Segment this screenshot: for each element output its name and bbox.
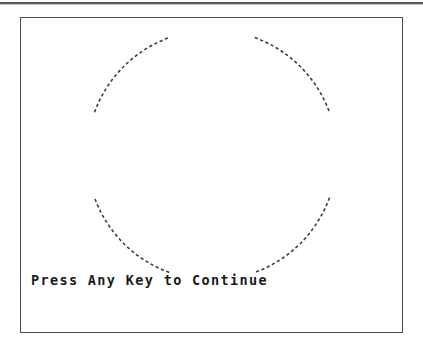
terminal-screen: Press Any Key to Continue [0, 0, 423, 351]
top-divider-rule-shadow [0, 4, 423, 5]
press-any-key-prompt[interactable]: Press Any Key to Continue [31, 272, 268, 288]
